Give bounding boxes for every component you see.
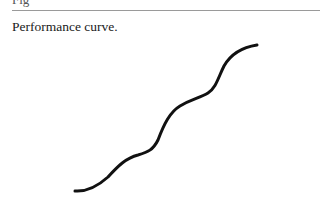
- performance-curve: [75, 45, 257, 191]
- performance-curve-figure: [0, 0, 323, 197]
